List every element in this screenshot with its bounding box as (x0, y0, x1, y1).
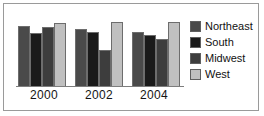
x-tick-label-2000: 2000 (18, 88, 70, 102)
legend-swatch-northeast (190, 21, 201, 32)
bar-group-2002 (75, 14, 123, 87)
chart-screenshot: 2000 2002 2004 Northeast South Midwest W… (0, 0, 264, 116)
bar-2000-midwest (42, 27, 54, 87)
legend-swatch-west (190, 69, 201, 80)
legend-label-south: South (205, 37, 234, 48)
legend-item-northeast: Northeast (190, 19, 253, 33)
legend-item-midwest: Midwest (190, 51, 253, 65)
bar-2004-northeast (132, 32, 144, 87)
legend-swatch-midwest (190, 53, 201, 64)
x-axis-tick-labels: 2000 2002 2004 (18, 88, 180, 102)
bar-2002-west (111, 22, 123, 87)
bar-group-2004 (132, 14, 180, 87)
x-tick-label-2002: 2002 (73, 88, 125, 102)
bar-2000-south (30, 33, 42, 87)
legend-label-midwest: Midwest (205, 53, 245, 64)
bar-2000-west (54, 23, 66, 87)
legend-label-northeast: Northeast (205, 21, 253, 32)
bar-2002-northeast (75, 29, 87, 87)
x-axis-line (16, 86, 184, 87)
x-tick-label-2004: 2004 (128, 88, 180, 102)
bar-group-2000 (18, 14, 66, 87)
chart-frame: 2000 2002 2004 Northeast South Midwest W… (3, 3, 259, 111)
legend-swatch-south (190, 37, 201, 48)
legend-item-west: West (190, 67, 253, 81)
legend-item-south: South (190, 35, 253, 49)
bar-2004-south (144, 35, 156, 87)
bar-2002-midwest (99, 50, 111, 87)
bar-groups (18, 14, 180, 87)
legend-label-west: West (205, 69, 230, 80)
chart-legend: Northeast South Midwest West (190, 19, 253, 81)
bar-2004-midwest (156, 39, 168, 87)
bar-2002-south (87, 32, 99, 87)
bar-2000-northeast (18, 26, 30, 87)
bar-2004-west (168, 22, 180, 87)
plot-area: 2000 2002 2004 (18, 14, 180, 97)
